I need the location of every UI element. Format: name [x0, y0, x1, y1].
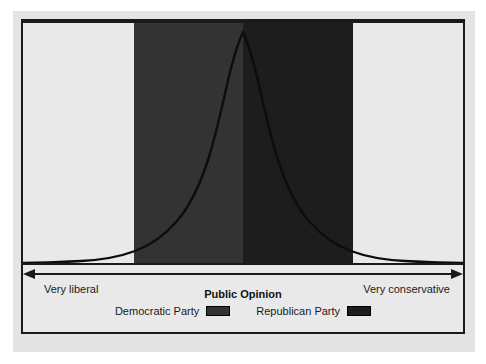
plot-area: [23, 21, 463, 265]
legend-item-republican: Republican Party: [256, 305, 371, 317]
legend-swatch-democratic: [206, 306, 230, 316]
chart-legend: Democratic Party Republican Party: [0, 305, 486, 317]
legend-label-democratic: Democratic Party: [115, 305, 199, 317]
figure-container: Very liberal Very conservative Public Op…: [0, 0, 486, 364]
legend-swatch-republican: [347, 306, 371, 316]
chart-title: Public Opinion: [0, 288, 486, 300]
axis-baseline: [23, 263, 463, 265]
legend-item-democratic: Democratic Party: [115, 305, 230, 317]
legend-label-republican: Republican Party: [256, 305, 340, 317]
double-headed-axis-arrow: [23, 266, 463, 282]
distribution-curve: [23, 21, 463, 265]
plot-top-rule: [23, 21, 463, 23]
